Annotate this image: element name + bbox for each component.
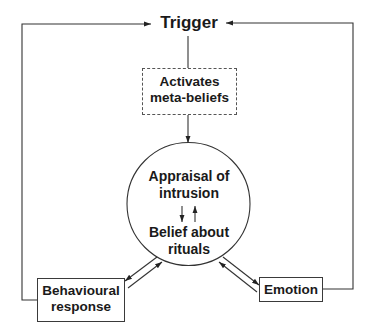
- appraisal-line2: intrusion: [132, 185, 246, 202]
- belief-line1: Belief about: [132, 224, 246, 241]
- appraisal-line1: Appraisal of: [132, 168, 246, 185]
- meta-beliefs-node: Activates meta-beliefs: [142, 68, 237, 115]
- emotion-node: Emotion: [259, 277, 323, 302]
- trigger-node: Trigger: [155, 13, 223, 33]
- behavioural-response-node: Behavioural response: [37, 278, 125, 322]
- meta-beliefs-line2: meta-beliefs: [143, 90, 236, 106]
- appraisal-of-intrusion-label: Appraisal of intrusion: [132, 168, 246, 201]
- trigger-label: Trigger: [160, 13, 218, 32]
- emotion-label: Emotion: [260, 282, 322, 298]
- circle-to-emotion-arrow: [223, 257, 259, 285]
- behavioural-line2: response: [38, 299, 124, 315]
- belief-about-rituals-label: Belief about rituals: [132, 224, 246, 257]
- behavioural-line1: Behavioural: [38, 283, 124, 299]
- feedback-line-left: [22, 24, 151, 300]
- belief-line2: rituals: [132, 241, 246, 258]
- meta-beliefs-line1: Activates: [143, 74, 236, 90]
- emotion-to-circle-arrow: [219, 262, 257, 292]
